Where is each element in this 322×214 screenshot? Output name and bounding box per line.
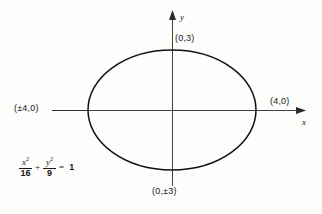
fraction-x-numerator: x2 <box>20 156 31 168</box>
fraction-x-denominator: 16 <box>20 169 30 179</box>
fraction-y-term: y2 9 <box>43 156 56 179</box>
equation-right-hand-side: 1 <box>69 162 74 172</box>
exponent-x: 2 <box>26 156 29 162</box>
x-axis-label: x <box>302 117 306 127</box>
plot-canvas <box>0 0 322 214</box>
x-axis-arrowhead <box>296 107 306 114</box>
y-axis-arrowhead <box>169 10 176 20</box>
plus-operator: + <box>35 162 40 172</box>
ellipse-figure: (0,3) (0,±3) (±4,0) (4,0) x y x2 16 + y2… <box>0 0 322 214</box>
vertex-label-right: (4,0) <box>270 96 290 106</box>
equals-operator: = <box>59 162 64 172</box>
fraction-y-denominator: 9 <box>47 169 52 179</box>
y-axis-label: y <box>180 12 184 22</box>
x-axis <box>52 107 306 114</box>
ellipse-equation: x2 16 + y2 9 = 1 <box>18 156 74 179</box>
vertex-label-bottom: (0,±3) <box>152 186 177 196</box>
exponent-y: 2 <box>50 156 53 162</box>
fraction-x-term: x2 16 <box>19 156 32 179</box>
fraction-y-numerator: y2 <box>44 156 55 168</box>
vertex-label-left: (±4,0) <box>14 103 39 113</box>
ellipse-curve <box>88 50 256 170</box>
vertex-label-top: (0,3) <box>175 33 195 43</box>
